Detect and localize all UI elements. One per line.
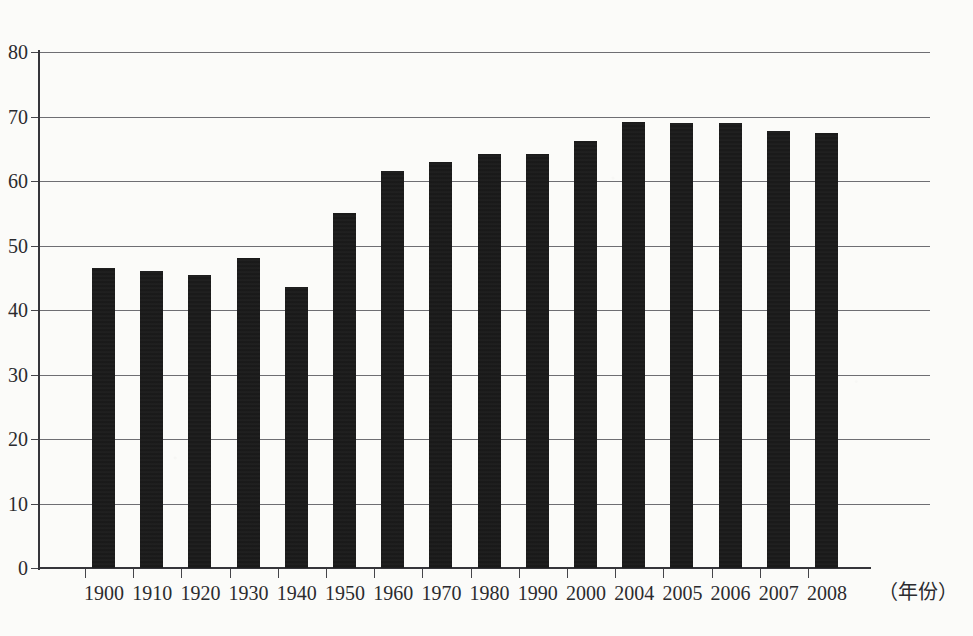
bar-chart: 01020304050607080 1900191019201930194019… — [0, 0, 973, 636]
x-tick-1950 — [326, 569, 327, 578]
x-tick-1900 — [85, 569, 86, 578]
x-tick-label-2008: 2008 — [807, 583, 847, 603]
x-tick-label-1980: 1980 — [470, 583, 510, 603]
bar-1930 — [237, 258, 260, 568]
x-tick-2007 — [760, 569, 761, 578]
y-tick-label-60: 60 — [0, 171, 28, 191]
bar-2004 — [622, 122, 645, 568]
y-tick-label-80: 80 — [0, 42, 28, 62]
x-axis-caption: （年份） — [878, 582, 958, 602]
y-tick-label-50: 50 — [0, 236, 28, 256]
x-tick-label-2007: 2007 — [759, 583, 799, 603]
bar-2000 — [574, 141, 597, 568]
bar-1960 — [381, 171, 404, 568]
x-tick-label-2006: 2006 — [711, 583, 751, 603]
y-tick-label-20: 20 — [0, 429, 28, 449]
y-tick-label-30: 30 — [0, 365, 28, 385]
x-tick-1970 — [422, 569, 423, 578]
x-tick-1960 — [374, 569, 375, 578]
x-tick-label-2000: 2000 — [566, 583, 606, 603]
bar-1910 — [140, 271, 163, 568]
x-tick-label-1940: 1940 — [277, 583, 317, 603]
x-tick-1980 — [471, 569, 472, 578]
x-tick-label-1960: 1960 — [373, 583, 413, 603]
x-tick-1940 — [278, 569, 279, 578]
x-tick-2008 — [808, 569, 809, 578]
y-tick-label-10: 10 — [0, 494, 28, 514]
bar-2007 — [767, 131, 790, 568]
bar-1900 — [92, 268, 115, 568]
x-tick-2005 — [663, 569, 664, 578]
x-tick-label-1930: 1930 — [229, 583, 269, 603]
bar-1970 — [429, 162, 452, 568]
x-tick-label-2005: 2005 — [662, 583, 702, 603]
bar-1980 — [478, 154, 501, 568]
bar-1940 — [285, 287, 308, 568]
x-tick-1920 — [181, 569, 182, 578]
x-tick-label-1900: 1900 — [84, 583, 124, 603]
bar-2006 — [719, 123, 742, 568]
y-tick-label-0: 0 — [0, 558, 28, 578]
bar-1920 — [188, 275, 211, 568]
x-tick-1930 — [230, 569, 231, 578]
x-tick-label-1990: 1990 — [518, 583, 558, 603]
y-tick-label-70: 70 — [0, 107, 28, 127]
x-tick-1990 — [519, 569, 520, 578]
bar-1950 — [333, 213, 356, 568]
x-tick-1910 — [133, 569, 134, 578]
x-tick-label-1970: 1970 — [421, 583, 461, 603]
bar-2005 — [670, 123, 693, 568]
bar-2008 — [815, 133, 838, 568]
x-tick-label-2004: 2004 — [614, 583, 654, 603]
x-tick-2006 — [712, 569, 713, 578]
bars-layer — [38, 52, 930, 568]
bar-1990 — [526, 154, 549, 568]
x-tick-label-1920: 1920 — [180, 583, 220, 603]
y-tick-label-40: 40 — [0, 300, 28, 320]
x-tick-label-1950: 1950 — [325, 583, 365, 603]
x-tick-label-1910: 1910 — [132, 583, 172, 603]
x-tick-2000 — [567, 569, 568, 578]
x-tick-2004 — [615, 569, 616, 578]
